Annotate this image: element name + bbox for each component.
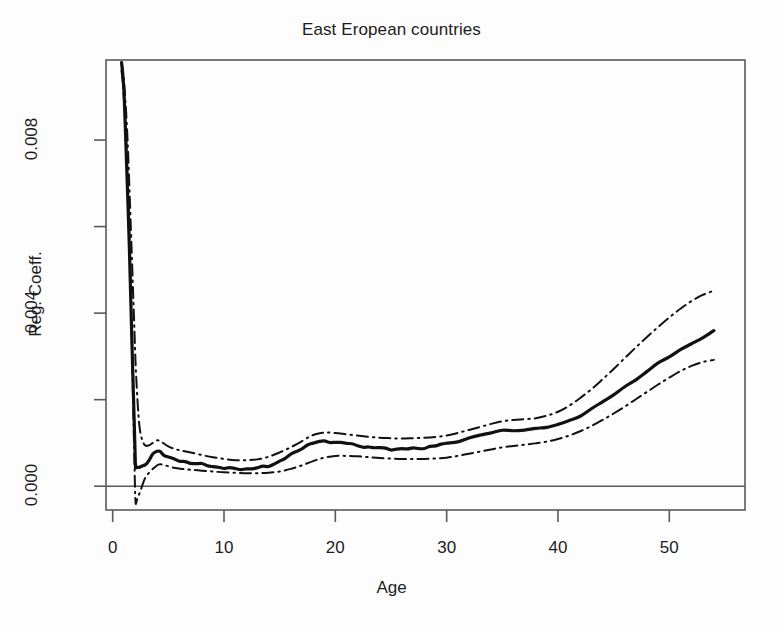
plot-frame (106, 60, 745, 510)
x-axis-ticks (113, 510, 670, 522)
y-tick-label: 0.000 (22, 450, 42, 520)
x-tick-label: 40 (528, 538, 588, 558)
series-line (122, 71, 714, 504)
x-tick-label: 0 (83, 538, 143, 558)
series-line (122, 62, 714, 460)
series-line (122, 63, 714, 470)
x-tick-label: 10 (194, 538, 254, 558)
x-axis-label: Age (0, 578, 783, 598)
x-tick-label: 50 (639, 538, 699, 558)
figure-canvas: East Eropean countries 01020304050 0.000… (0, 0, 783, 630)
y-axis-ticks (94, 140, 106, 486)
data-series-layer (122, 62, 714, 504)
y-axis-label: Reg. Coeff. (26, 224, 46, 364)
x-tick-label: 30 (417, 538, 477, 558)
plot-area (0, 0, 783, 630)
y-tick-label: 0.008 (22, 104, 42, 174)
x-tick-label: 20 (305, 538, 365, 558)
